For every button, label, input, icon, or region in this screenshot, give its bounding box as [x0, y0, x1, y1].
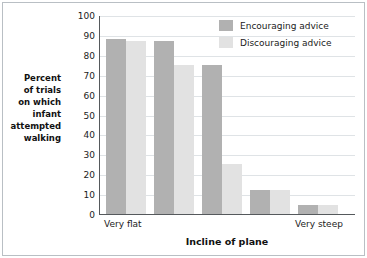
y-axis-title-line: Percent	[8, 72, 61, 84]
y-axis-title-line: walking	[8, 132, 61, 144]
x-axis-title: Incline of plane	[99, 236, 355, 247]
y-tick-label: 80	[67, 52, 95, 61]
y-tick-label: 40	[67, 131, 95, 140]
bar-discouraging-3	[270, 190, 290, 214]
bar-encouraging-2	[202, 65, 222, 214]
y-tick-label: 90	[67, 32, 95, 41]
y-tick-label: 100	[67, 12, 95, 21]
y-tick-label: 20	[67, 171, 95, 180]
y-axis-title-line: on which	[8, 96, 61, 108]
y-tick-label: 10	[67, 191, 95, 200]
legend-swatch-icon	[219, 20, 233, 31]
bar-chart-figure: Percent of trials on which infant attemp…	[0, 0, 367, 258]
y-axis-ticks: 1009080706050403020100	[63, 16, 95, 215]
x-tick-label-very-steep: Very steep	[295, 219, 343, 229]
legend-label: Encouraging advice	[240, 21, 329, 31]
y-tick-label: 0	[67, 211, 95, 220]
bar-encouraging-3	[250, 190, 270, 214]
y-tick-label: 70	[67, 72, 95, 81]
bar-encouraging-4	[298, 205, 318, 214]
legend-item-encouraging: Encouraging advice	[219, 18, 332, 33]
bar-discouraging-4	[318, 205, 338, 214]
y-tick-label: 30	[67, 151, 95, 160]
x-tick-label-very-flat: Very flat	[104, 219, 142, 229]
bar-discouraging-0	[126, 41, 146, 214]
bar-encouraging-0	[106, 39, 126, 214]
legend-item-discouraging: Discouraging advice	[219, 35, 332, 50]
legend-label: Discouraging advice	[240, 38, 332, 48]
y-axis-title-line: infant	[8, 108, 61, 120]
bar-discouraging-1	[174, 65, 194, 214]
y-axis-title: Percent of trials on which infant attemp…	[8, 72, 61, 144]
y-axis-title-line: of trials	[8, 84, 61, 96]
bar-encouraging-1	[154, 41, 174, 214]
legend-swatch-icon	[219, 37, 233, 48]
y-tick-label: 60	[67, 92, 95, 101]
y-tick-label: 50	[67, 112, 95, 121]
y-axis-title-line: attempted	[8, 120, 61, 132]
chart-legend: Encouraging advice Discouraging advice	[219, 18, 332, 52]
bar-discouraging-2	[222, 164, 242, 214]
